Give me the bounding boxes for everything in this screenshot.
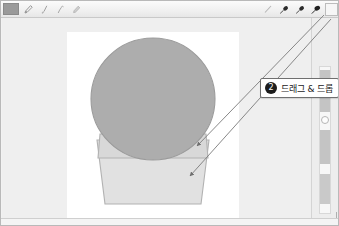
- panel-scrollbar-thumb-middle[interactable]: [320, 130, 330, 164]
- brush-tip-2-icon[interactable]: [293, 3, 307, 16]
- layers-panel: [311, 18, 338, 220]
- marker-tool-icon[interactable]: [70, 3, 83, 16]
- callout-drag-and-drop: 2 드래그 & 드롭: [260, 78, 339, 98]
- workspace: [2, 18, 339, 220]
- toolbar: [1, 1, 339, 18]
- window-bottom-strip: [1, 218, 339, 225]
- brush-tip-3-icon[interactable]: [309, 3, 323, 16]
- app-window: 2 드래그 & 드롭: [0, 0, 339, 226]
- toolbar-right-group: [261, 3, 339, 16]
- callout-label: 드래그 & 드롭: [281, 82, 333, 95]
- ink-pen-tool-icon[interactable]: [54, 3, 67, 16]
- callout-step-badge: 2: [265, 82, 277, 94]
- globe-sphere-shape: [91, 38, 215, 160]
- brush-tool-icon[interactable]: [38, 3, 51, 16]
- toolbar-left-group: [1, 3, 83, 16]
- color-well-button[interactable]: [325, 3, 338, 16]
- pen-tool-icon[interactable]: [22, 3, 35, 16]
- eraser-tool-icon[interactable]: [261, 3, 275, 16]
- panel-scrollbar-knob[interactable]: [321, 116, 329, 124]
- canvas-sheet[interactable]: [67, 32, 239, 218]
- snow-globe-artwork: [67, 32, 239, 218]
- panel-scrollbar-thumb-lower[interactable]: [320, 174, 330, 204]
- brush-tip-1-icon[interactable]: [277, 3, 291, 16]
- document-thumbnail[interactable]: [3, 3, 19, 15]
